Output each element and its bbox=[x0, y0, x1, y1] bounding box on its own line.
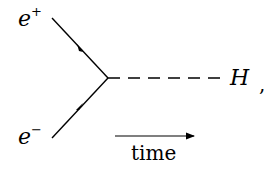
time-label: time bbox=[131, 143, 176, 163]
electron-charge: − bbox=[31, 122, 42, 137]
electron-symbol: e bbox=[18, 124, 31, 149]
feynman-diagram: e+ e− H , time bbox=[0, 0, 277, 170]
positron-charge: + bbox=[31, 4, 42, 19]
comma: , bbox=[259, 74, 265, 94]
electron-label: e− bbox=[18, 126, 42, 148]
positron-symbol: e bbox=[18, 6, 31, 31]
higgs-label: H bbox=[230, 67, 249, 89]
positron-label: e+ bbox=[18, 8, 42, 30]
